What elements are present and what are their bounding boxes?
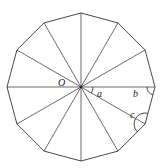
label-angle-c: c xyxy=(130,109,135,120)
radius-line xyxy=(17,50,81,87)
dodecagon-diagram: O a b c xyxy=(0,0,166,168)
center-point xyxy=(80,86,83,89)
label-center-o: O xyxy=(58,77,65,88)
label-angle-b: b xyxy=(133,88,138,99)
radius-line xyxy=(81,23,118,87)
angle-b-arc xyxy=(147,87,153,95)
radius-line xyxy=(81,50,145,87)
radius-line xyxy=(44,87,81,151)
label-angle-a: a xyxy=(97,88,102,99)
radius-line xyxy=(17,87,81,124)
angle-a-arc xyxy=(91,87,93,93)
